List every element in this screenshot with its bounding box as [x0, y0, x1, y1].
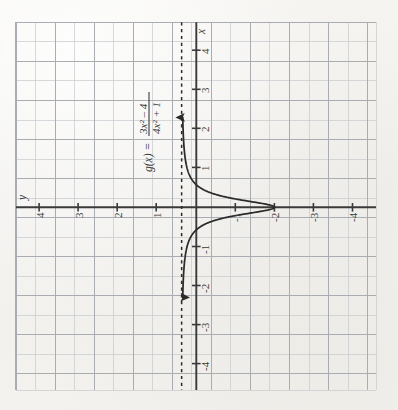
- tick-label-x-neg2: -2: [199, 284, 211, 293]
- graph-figure: g(x) = 3x² – 4 4x² + 1 x y 4 3 2 1 -1 -2…: [0, 0, 398, 410]
- axis-label-x: x: [195, 28, 207, 35]
- tick-label-y-neg1: -1: [230, 213, 242, 222]
- tick-label-y-neg4: -4: [347, 212, 359, 222]
- equation-numerator: 3x² – 4: [137, 103, 149, 135]
- axis-label-y: y: [16, 194, 29, 201]
- tick-label-x-3: 3: [199, 87, 211, 93]
- graph-svg: g(x) = 3x² – 4 4x² + 1 x y 4 3 2 1 -1 -2…: [0, 0, 398, 410]
- tick-label-y-1: 1: [151, 213, 163, 219]
- tick-label-y-neg2: -2: [269, 213, 281, 222]
- tick-label-x-neg4: -4: [199, 361, 211, 371]
- tick-label-x-neg3: -3: [199, 322, 211, 332]
- tick-label-y-neg3: -3: [308, 212, 320, 222]
- equation-label: g(x) = 3x² – 4 4x² + 1: [137, 92, 163, 172]
- tick-label-x-4: 4: [199, 48, 211, 54]
- equation-denominator: 4x² + 1: [150, 102, 162, 134]
- tick-label-y-3: 3: [73, 212, 85, 218]
- tick-label-x-2: 2: [199, 127, 211, 133]
- tick-label-y-2: 2: [112, 213, 124, 219]
- tick-label-y-4: 4: [34, 212, 46, 218]
- equation-lhs: g(x) =: [142, 143, 155, 172]
- plot-area: g(x) = 3x² – 4 4x² + 1 x y 4 3 2 1 -1 -2…: [16, 22, 376, 390]
- tick-label-x-neg1: -1: [199, 245, 211, 254]
- tick-label-x-1: 1: [199, 166, 211, 172]
- tick-labels-x-axis: 4 3 2 1 -1 -2 -3 -4: [199, 48, 211, 371]
